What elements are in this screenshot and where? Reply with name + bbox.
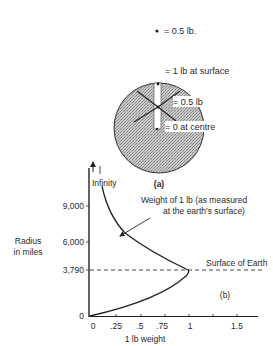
y-axis-label: Radius	[15, 236, 41, 246]
surface-weight-label: = 1 lb at surface	[165, 66, 229, 76]
x-tick-label: .75	[156, 321, 168, 331]
y-tick-label: 0	[79, 311, 84, 321]
x-tick-label: 0	[91, 321, 96, 331]
weight-graph: Infinity 9,000 6,000 3,790 0 Radius in m…	[14, 162, 268, 344]
pointer-arrow-icon	[120, 218, 150, 236]
earth-diagram: = 1 lb at surface = 0.5 lb = 0 at centre…	[114, 65, 243, 189]
bullet-icon	[155, 29, 158, 32]
curve-label: at the earth's surface)	[163, 206, 245, 216]
x-tick-label: 1.5	[231, 321, 243, 331]
bullet-icon	[156, 105, 159, 108]
y-tick-label: 9,000	[63, 201, 85, 211]
x-tick-label: .25	[110, 321, 122, 331]
diagram-canvas: = 0.5 lb. = 1 lb at surface = 0.5 lb = 0…	[0, 0, 273, 346]
x-axis-label: 1 lb weight	[125, 334, 166, 344]
bullet-icon	[156, 128, 158, 130]
legend: = 0.5 lb.	[155, 26, 196, 36]
curve-label: Weight of 1 lb (as measured	[141, 195, 247, 205]
centre-weight-label: = 0 at centre	[165, 122, 215, 132]
bullet-icon	[157, 83, 160, 86]
y-axis-label: in miles	[14, 247, 43, 257]
panel-b-caption: (b)	[220, 290, 231, 300]
x-tick-label: .5	[136, 321, 143, 331]
mid-weight-label: = 0.5 lb	[173, 97, 203, 107]
y-tick-label: 3,790	[63, 265, 85, 275]
y-tick-label: 6,000	[63, 237, 85, 247]
panel-a-caption: (a)	[154, 179, 165, 189]
x-tick-label: 1	[188, 321, 193, 331]
legend-text: = 0.5 lb.	[164, 26, 196, 36]
infinity-label: Infinity	[92, 178, 117, 188]
surface-label: Surface of Earth	[206, 258, 268, 268]
